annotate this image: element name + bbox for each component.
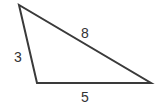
side-label-left: 3	[14, 49, 22, 65]
triangle-diagram: 3 8 5	[0, 0, 160, 109]
side-label-hypotenuse: 8	[81, 25, 89, 41]
triangle	[19, 5, 151, 83]
side-label-bottom: 5	[81, 89, 89, 105]
